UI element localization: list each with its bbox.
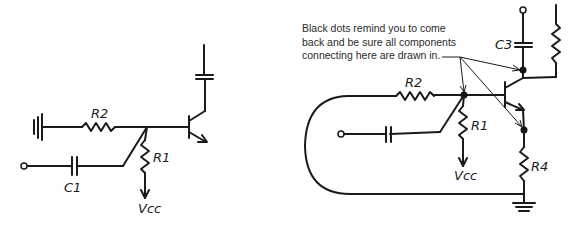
label-r1-right: R1 bbox=[471, 118, 488, 133]
resistor-r2-right bbox=[396, 92, 434, 100]
resistor-r1-left bbox=[141, 140, 149, 173]
resistor-r2-left bbox=[82, 123, 115, 131]
label-r2-left: R2 bbox=[91, 106, 108, 121]
output-terminal-right bbox=[520, 7, 526, 13]
resistor-collector bbox=[552, 5, 560, 63]
ground-symbol-right bbox=[513, 203, 535, 211]
input-terminal-left bbox=[21, 163, 27, 169]
annotation-line-2: back and be sure all components bbox=[302, 36, 502, 50]
transistor-left bbox=[189, 45, 213, 142]
label-r1-left: R1 bbox=[153, 150, 170, 165]
label-r2-right: R2 bbox=[405, 75, 422, 90]
ground-symbol-left bbox=[34, 114, 42, 140]
annotation-note: Black dots remind you to come back and b… bbox=[302, 22, 502, 63]
resistor-r4 bbox=[520, 147, 528, 181]
annotation-line-1: Black dots remind you to come bbox=[302, 22, 502, 36]
input-terminal-right bbox=[338, 131, 344, 137]
transistor-right bbox=[505, 78, 524, 130]
resistor-r1-right bbox=[459, 106, 467, 139]
label-c1-left: C1 bbox=[64, 180, 81, 195]
left-circuit: R2 R1 C1 Vcc bbox=[21, 45, 213, 216]
label-vcc-left: Vcc bbox=[138, 201, 161, 216]
label-vcc-right: Vcc bbox=[454, 168, 477, 183]
label-r4: R4 bbox=[531, 159, 548, 174]
annotation-line-3: connecting here are drawn in. bbox=[302, 49, 502, 63]
annotation-arrows bbox=[442, 57, 522, 127]
